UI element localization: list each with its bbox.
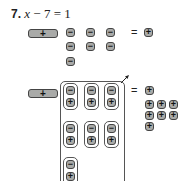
negative-tile: − xyxy=(66,160,75,169)
negative-tile: − xyxy=(107,124,116,133)
negative-tile: − xyxy=(66,42,75,51)
x-tile: + xyxy=(28,89,58,98)
positive-tile: + xyxy=(169,100,178,109)
negative-tile: − xyxy=(87,86,96,95)
zero-pair: − + xyxy=(63,83,78,110)
negative-tile: − xyxy=(86,42,95,51)
negative-tile: − xyxy=(107,86,116,95)
zero-pair: − + xyxy=(84,121,99,148)
negative-tile: − xyxy=(66,57,75,66)
positive-tile: + xyxy=(145,100,154,109)
x-tile: + xyxy=(28,29,58,38)
positive-tile: + xyxy=(107,136,116,145)
positive-tile: + xyxy=(87,98,96,107)
zero-pair: − + xyxy=(84,83,99,110)
negative-tile: − xyxy=(106,42,115,51)
zero-pair: − + xyxy=(104,121,119,148)
negative-tile: − xyxy=(66,124,75,133)
positive-tile: + xyxy=(157,100,166,109)
problem-title: 7. x − 7 = 1 xyxy=(11,6,71,22)
positive-tile: + xyxy=(87,136,96,145)
negative-tile: − xyxy=(66,28,75,37)
positive-tile: + xyxy=(169,111,178,120)
equals-sign: = xyxy=(131,84,137,96)
negative-tile: − xyxy=(86,28,95,37)
positive-tile: + xyxy=(107,98,116,107)
positive-tile: + xyxy=(144,28,153,37)
positive-tile: + xyxy=(145,86,154,95)
positive-tile: + xyxy=(157,111,166,120)
negative-tile: − xyxy=(66,86,75,95)
negative-tile: − xyxy=(106,28,115,37)
zero-pair: − + xyxy=(104,83,119,110)
zero-pair: − + xyxy=(63,121,78,148)
positive-tile: + xyxy=(66,136,75,145)
negative-tile: − xyxy=(87,124,96,133)
arrow-icon xyxy=(121,75,129,83)
positive-tile: + xyxy=(145,111,154,120)
zero-pair: − + xyxy=(63,157,78,181)
positive-tile: + xyxy=(66,172,75,181)
problem-number: 7. xyxy=(11,7,21,21)
positive-tile: + xyxy=(66,98,75,107)
equation-rest: − 7 = 1 xyxy=(30,6,71,21)
positive-tile: + xyxy=(145,122,154,131)
equals-sign: = xyxy=(131,26,137,38)
